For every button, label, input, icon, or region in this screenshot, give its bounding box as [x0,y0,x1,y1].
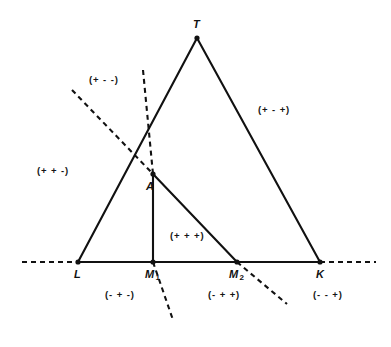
side-T-K [197,38,320,262]
line-through-A-M2-upper [72,90,153,174]
region-minus-plus-plus: (- + +) [208,289,240,300]
line-through-A-M2-lower [237,262,287,304]
vertex-label-text: K [316,268,324,280]
geometry-figure: TLM1M2KA (+ - -)(+ + -)(+ - +)(+ + +)(- … [0,0,391,347]
region-plus-minus-plus: (+ - +) [258,104,290,115]
vertex-label-t: T [193,18,200,30]
region-plus-plus-minus: (+ + -) [37,165,69,176]
vertex-label-text: T [193,18,200,30]
region-minus-minus-plus: (- - +) [313,289,343,300]
vertex-label-m2: M2 [229,268,244,282]
vertex-dot-m2 [234,259,239,264]
region-plus-minus-minus: (+ - -) [89,74,119,85]
vertex-label-m1: M1 [145,268,160,282]
vertex-dot-m1 [150,259,155,264]
side-L-T [78,38,197,262]
vertex-label-k: K [316,268,324,280]
vertex-label-text: L [74,268,81,280]
region-minus-plus-minus: (- + -) [105,289,135,300]
vertex-dot-a [150,171,155,176]
solid-line-group [78,38,320,262]
vertex-dot-l [75,259,80,264]
cevian-A-M2 [153,174,237,262]
vertex-dot-k [317,259,322,264]
vertex-dot-t [194,35,199,40]
vertex-label-a: A [146,180,154,192]
vertex-label-text: M [229,268,238,280]
dashed-line-group [22,70,376,320]
vertex-label-subscript: 2 [238,273,244,282]
vertex-label-subscript: 1 [154,273,160,282]
vertex-label-l: L [74,268,81,280]
vertex-label-text: M [145,268,154,280]
vertex-label-text: A [146,180,154,192]
region-plus-plus-plus: (+ + +) [170,230,205,241]
